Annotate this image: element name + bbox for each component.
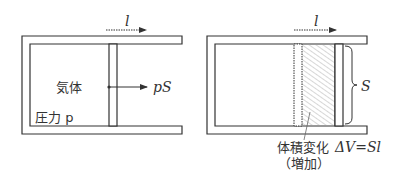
area-brace [345,46,357,124]
volume-formula: ΔV=Sl [334,139,381,155]
pressure-label: 圧力 p [35,110,73,125]
left-displacement-label: l [125,13,129,29]
final-piston-position [335,44,343,126]
area-label: S [361,78,371,94]
gas-label: 気体 [56,80,82,95]
increase-label: （増加） [278,156,330,171]
volume-change-region [302,44,335,126]
right-displacement-label: l [314,13,318,29]
force-label: pS [153,79,172,95]
left-piston [109,44,117,126]
diagram-canvas: l 気体 pS 圧力 p l S 体積変化 ΔV=Sl （増加） [0,0,393,174]
volume-change-label: 体積変化 [277,140,329,155]
initial-piston-position [294,44,302,126]
right-cylinder [207,30,367,140]
